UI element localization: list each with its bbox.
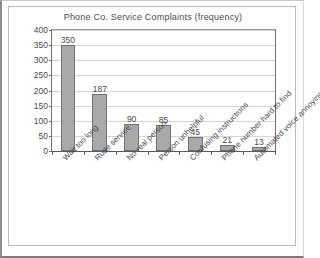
gridline (52, 75, 275, 76)
y-tick-mark (49, 106, 52, 107)
x-tick-mark (275, 151, 276, 155)
y-tick-label: 200 (34, 86, 48, 96)
chart-frame: Phone Co. Service Complaints (frequency)… (8, 6, 296, 246)
y-tick-mark (49, 75, 52, 76)
y-tick-mark (49, 45, 52, 46)
y-tick-label: 100 (34, 116, 48, 126)
y-tick-mark (49, 121, 52, 122)
plot-area: 400350300250200150100500 350187908545211… (51, 29, 276, 152)
bar-value-label: 187 (93, 84, 107, 94)
x-tick-mark (179, 151, 180, 155)
y-tick-mark (49, 91, 52, 92)
y-tick-label: 400 (34, 25, 48, 35)
y-tick-label: 50 (39, 131, 48, 141)
y-tick-mark (49, 136, 52, 137)
y-tick-label: 350 (34, 40, 48, 50)
gridline (52, 91, 275, 92)
x-tick-mark (211, 151, 212, 155)
bar-value-label: 350 (61, 35, 75, 45)
bar-value-label: 90 (127, 114, 136, 124)
y-tick-mark (49, 60, 52, 61)
chart-title: Phone Co. Service Complaints (frequency) (9, 12, 297, 22)
x-tick-mark (84, 151, 85, 155)
y-tick-label: 250 (34, 70, 48, 80)
gridline (52, 45, 275, 46)
y-tick-label: 0 (43, 146, 48, 156)
x-tick-mark (243, 151, 244, 155)
y-tick-mark (49, 30, 52, 31)
gridline (52, 60, 275, 61)
x-tick-mark (148, 151, 149, 155)
y-tick-label: 300 (34, 55, 48, 65)
bar-value-label: 21 (222, 135, 231, 145)
scanned-page: Phone Co. Service Complaints (frequency)… (0, 0, 304, 258)
y-tick-label: 150 (34, 101, 48, 111)
gridline (52, 30, 275, 31)
bar: 350 (61, 45, 76, 151)
x-tick-mark (52, 151, 53, 155)
x-tick-mark (116, 151, 117, 155)
